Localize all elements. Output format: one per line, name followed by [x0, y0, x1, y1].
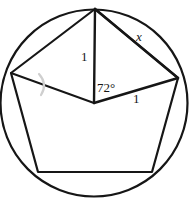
geometry-diagram-svg	[0, 0, 189, 201]
radius-horizontal-label: 1	[133, 92, 140, 105]
central-angle-label: 72°	[97, 81, 115, 94]
unknown-side-label: x	[136, 30, 142, 43]
geometry-figure: 1 1 72° x ⌣ ⌣ ⌣ ⌣	[0, 0, 189, 201]
radius-to-left-vertex	[11, 73, 94, 103]
radius-to-top-vertex	[94, 9, 95, 103]
cropped-top-text-strip: ⌣ ⌣ ⌣ ⌣	[0, 0, 189, 7]
cropped-top-text: ⌣ ⌣ ⌣ ⌣	[2, 0, 125, 5]
radius-vertical-label: 1	[81, 50, 88, 63]
